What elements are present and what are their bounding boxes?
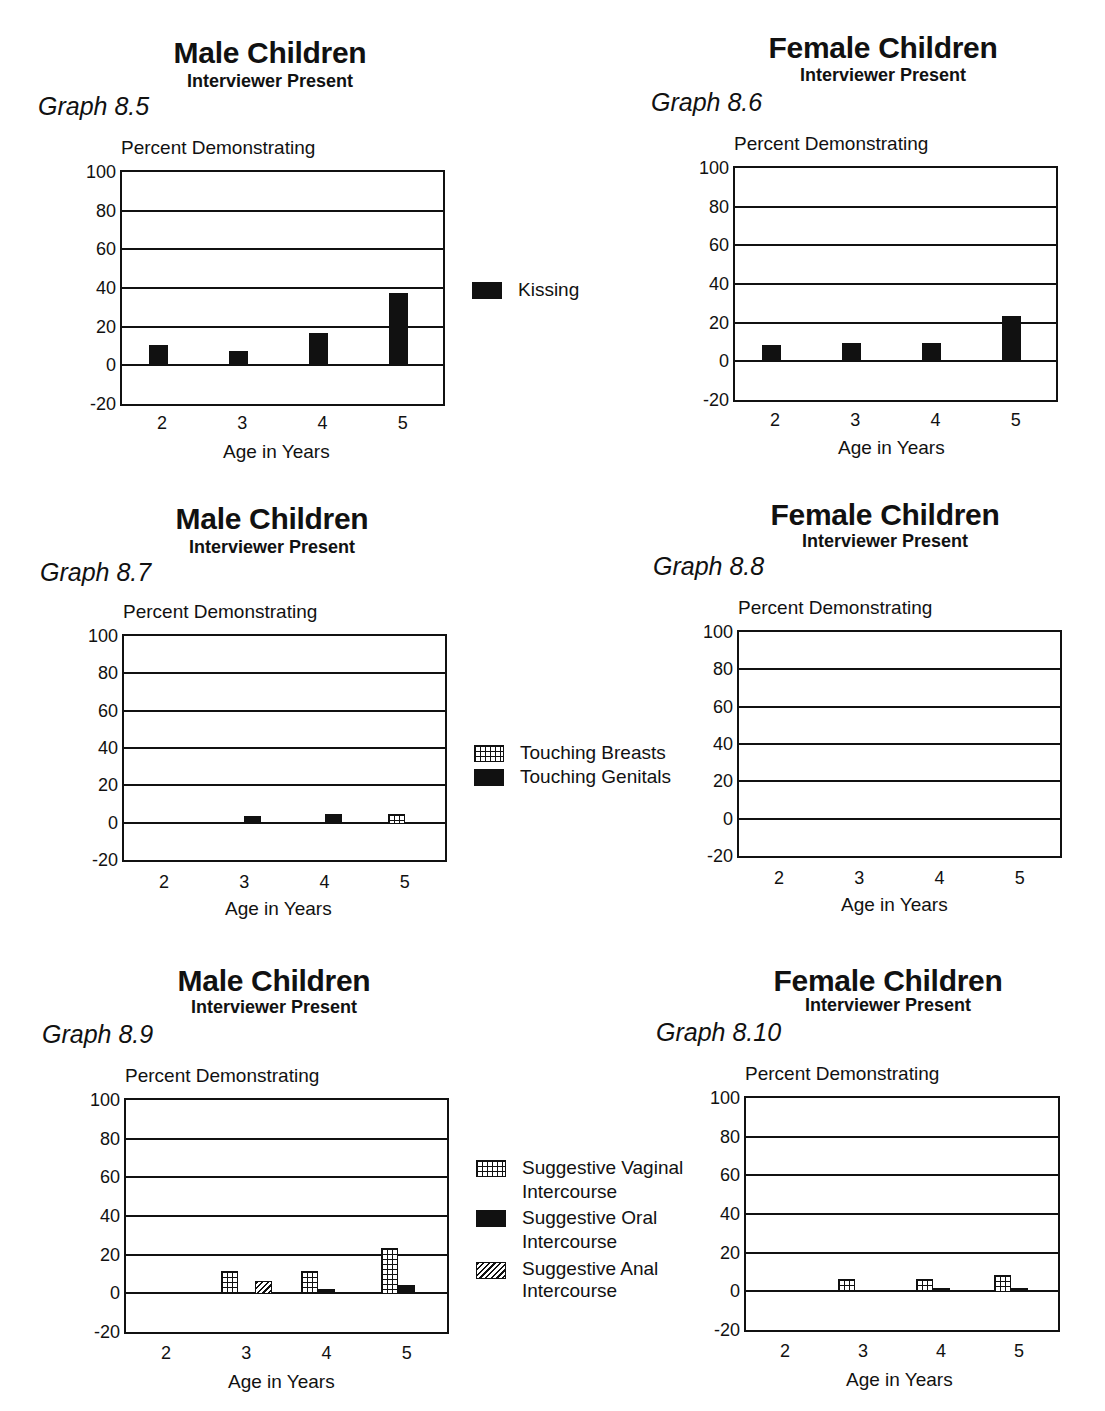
- legend-label-line: Suggestive Vaginal: [522, 1157, 683, 1178]
- bar-kissing: [309, 333, 328, 366]
- chart-title: Female Children: [645, 500, 1065, 530]
- y-tick-label: -20: [685, 391, 729, 409]
- bar-suggestive-anal-intercourse: [872, 1290, 889, 1292]
- bar-suggestive-oral-intercourse: [777, 1290, 794, 1292]
- grid-swatch-icon: [474, 745, 504, 762]
- y-tick-label: 80: [74, 664, 118, 682]
- bar-suggestive-oral-intercourse: [238, 1292, 255, 1294]
- y-tick-label: 80: [685, 198, 729, 216]
- plot-area: [122, 634, 447, 862]
- chart-title: Female Children: [643, 33, 1063, 63]
- x-tick-label: 5: [1005, 869, 1035, 887]
- y-tick-label: 0: [74, 814, 118, 832]
- chart-title: Male Children: [30, 38, 450, 68]
- legend-item-anal: Suggestive Anal Intercourse: [476, 1258, 658, 1302]
- bar-suggestive-anal-intercourse: [415, 1292, 432, 1294]
- legend-item-touching-genitals: Touching Genitals: [474, 765, 671, 789]
- legend-label-line: Intercourse: [522, 1280, 617, 1301]
- bar-suggestive-oral-intercourse: [318, 1289, 335, 1295]
- legend-item-touching-breasts: Touching Breasts: [474, 741, 666, 765]
- bar-touching-breasts: [147, 822, 164, 824]
- panel-graph-8-10: Female ChildrenInterviewer PresentGraph …: [648, 958, 1068, 1398]
- bar-suggestive-oral-intercourse: [158, 1292, 175, 1294]
- y-tick-label: 100: [685, 159, 729, 177]
- y-tick-label: 40: [74, 739, 118, 757]
- bar-kissing: [149, 345, 168, 366]
- bar-suggestive-anal-intercourse: [1028, 1290, 1045, 1292]
- bar-touching-genitals: [325, 814, 342, 823]
- x-tick-label: 4: [921, 411, 951, 429]
- panel-graph-8-8: Female ChildrenInterviewer PresentGraph …: [645, 492, 1065, 932]
- x-tick-label: 3: [840, 411, 870, 429]
- legend-label: Suggestive Vaginal Intercourse: [522, 1156, 683, 1204]
- x-tick-label: 3: [231, 1344, 261, 1362]
- y-tick-label: 100: [689, 623, 733, 641]
- gridline: [124, 784, 445, 786]
- x-tick-label: 4: [926, 1342, 956, 1360]
- y-tick-label: 60: [696, 1166, 740, 1184]
- legend-label: Suggestive Oral Intercourse: [522, 1206, 657, 1254]
- y-tick-label: 60: [685, 236, 729, 254]
- y-tick-label: 0: [685, 352, 729, 370]
- legend-label: Touching Breasts: [520, 741, 666, 765]
- x-tick-label: 2: [760, 411, 790, 429]
- chart-subtitle: Interviewer Present: [32, 538, 452, 556]
- legend-label-line: Suggestive Anal: [522, 1258, 658, 1279]
- bar-suggestive-vaginal-intercourse: [916, 1279, 933, 1293]
- gridline: [746, 1213, 1058, 1215]
- chart-subtitle: Interviewer Present: [30, 72, 450, 90]
- bar-touching-genitals: [940, 818, 957, 820]
- y-tick-label: 20: [689, 772, 733, 790]
- x-axis-label: Age in Years: [838, 438, 945, 457]
- plot-area: [744, 1096, 1060, 1332]
- bar-suggestive-anal-intercourse: [335, 1292, 352, 1294]
- bar-touching-breasts: [1003, 818, 1020, 820]
- bar-touching-genitals: [405, 822, 422, 824]
- solid-swatch-icon: [474, 769, 504, 786]
- y-tick-label: 60: [76, 1168, 120, 1186]
- y-tick-label: 80: [696, 1128, 740, 1146]
- x-tick-label: 4: [312, 1344, 342, 1362]
- gridline: [124, 710, 445, 712]
- bar-suggestive-anal-intercourse: [255, 1281, 272, 1295]
- y-tick-label: 100: [696, 1089, 740, 1107]
- y-tick-label: 100: [74, 627, 118, 645]
- y-tick-label: 20: [685, 314, 729, 332]
- x-tick-label: 3: [227, 414, 257, 432]
- solid-swatch-icon: [472, 282, 502, 299]
- graph-label: Graph 8.9: [42, 1022, 153, 1047]
- bar-suggestive-vaginal-intercourse: [301, 1271, 318, 1294]
- y-axis-label: Percent Demonstrating: [734, 134, 928, 153]
- x-tick-label: 4: [310, 873, 340, 891]
- graph-label: Graph 8.10: [656, 1020, 781, 1045]
- bar-touching-genitals: [244, 816, 261, 823]
- gridline: [126, 1138, 447, 1140]
- x-tick-label: 4: [925, 869, 955, 887]
- y-tick-label: 20: [76, 1246, 120, 1264]
- gridline: [735, 206, 1056, 208]
- solid-swatch-icon: [476, 1210, 506, 1227]
- y-tick-label: 20: [72, 318, 116, 336]
- bar-touching-genitals: [779, 818, 796, 820]
- hatch-swatch-icon: [476, 1262, 506, 1279]
- panel-graph-8-6: Female ChildrenInterviewer PresentGraph …: [643, 30, 1063, 470]
- y-tick-label: 40: [685, 275, 729, 293]
- bar-kissing: [389, 293, 408, 366]
- x-tick-label: 2: [151, 1344, 181, 1362]
- gridline: [126, 1176, 447, 1178]
- y-tick-label: 40: [76, 1207, 120, 1225]
- y-tick-label: 0: [689, 810, 733, 828]
- y-tick-label: 80: [689, 660, 733, 678]
- x-tick-label: 5: [1001, 411, 1031, 429]
- y-tick-label: 0: [696, 1282, 740, 1300]
- gridline: [122, 287, 443, 289]
- gridline: [124, 672, 445, 674]
- y-tick-label: 40: [696, 1205, 740, 1223]
- gridline: [122, 210, 443, 212]
- bar-kissing: [1002, 316, 1021, 362]
- plot-area: [120, 170, 445, 406]
- chart-subtitle: Interviewer Present: [648, 996, 1068, 1014]
- gridline: [746, 1136, 1058, 1138]
- y-tick-label: 40: [689, 735, 733, 753]
- gridline: [126, 1254, 447, 1256]
